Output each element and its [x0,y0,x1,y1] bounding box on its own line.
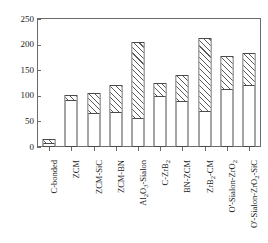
bar-slot [60,19,82,147]
y-axis-tick-mark [37,147,41,148]
x-axis-tick-mark [94,147,95,151]
bar-upper-segment [88,94,99,114]
x-axis-label-al2o3-sialon: Al2O3-Sialon [136,160,150,243]
bar-upper-segment [243,54,254,86]
bar-slot [83,19,105,147]
bar-o-sialon-zro2 [220,56,233,147]
bar-zcm-sic [87,93,100,147]
bar-slot [216,19,238,147]
bar-al2o3-sialon [131,42,144,147]
x-axis-tick-mark [227,147,228,151]
x-axis-tick-mark [160,147,161,151]
bars-area [38,19,260,147]
x-axis-label-o-sialon-zro2: O'-Sialon-ZrO2 [225,160,239,243]
bar-upper-segment [44,140,55,144]
x-axis-label-c-zrb2: C-ZrB2 [158,160,172,243]
x-axis-tick-mark [49,147,50,151]
x-axis-tick-mark [116,147,117,151]
bar-slot [105,19,127,147]
y-axis-tick-label: 0 [6,143,34,152]
bar-slot [38,19,60,147]
bar-upper-segment [177,76,188,102]
x-axis-tick-mark [182,147,183,151]
y-axis-tick-label: 150 [6,66,34,75]
y-axis-tick-label: 250 [6,15,34,24]
bar-upper-segment [155,84,166,97]
bar-zcm-bn [109,85,122,147]
bar-upper-segment [110,86,121,113]
bar-slot [238,19,260,147]
bar-upper-segment [199,39,210,112]
x-axis-tick-mark [71,147,72,151]
bar-bn-zcm [176,75,189,147]
bar-upper-segment [66,96,77,102]
x-axis-tick-mark [249,147,250,151]
bar-upper-segment [221,57,232,90]
flexural-strength-bar-chart: 抗折强度/MPa 250200150100500 C-bondedZCMZCM-… [0,0,268,243]
x-axis-tick-mark [138,147,139,151]
y-axis-tick-label: 100 [6,91,34,100]
x-axis-label-zcm-bn: ZCM-BN [114,160,128,243]
x-axis-label-bn-zcm: BN-ZCM [180,160,194,243]
x-axis-label-zrb2-cm: ZrB2-CM [203,160,217,243]
bar-slot [127,19,149,147]
x-axis-label-zcm-sic: ZCM-SiC [92,160,106,243]
y-axis-tick-label: 50 [6,117,34,126]
bar-o-sialon-zro2-sic [242,53,255,147]
x-axis-label-o-sialon-zro2-sic: O'-Sialon-ZrO2-SiC [247,160,261,243]
bar-slot [194,19,216,147]
y-axis-tick-label: 200 [6,40,34,49]
x-axis-label-zcm: ZCM [69,160,83,243]
bar-upper-segment [132,43,143,119]
bar-slot [171,19,193,147]
bar-slot [149,19,171,147]
bar-zrb2-cm [198,38,211,147]
bar-c-zrb2 [154,83,167,147]
bar-c-bonded [43,139,56,147]
x-axis-label-c-bonded: C-bonded [47,160,61,243]
bar-zcm [65,95,78,147]
x-axis-tick-mark [205,147,206,151]
